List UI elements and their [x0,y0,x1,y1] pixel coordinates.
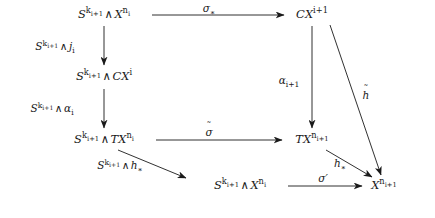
label-sigma-prime: σ′ [318,173,328,184]
node-top-left-X: X [114,7,122,21]
wedge-icon: ∧ [239,178,250,192]
alpha-subscript: i [71,108,73,117]
sigma-star-subscript: ∗ [210,8,215,17]
node-top-left: Ski+1∧Xni [78,9,130,21]
node-bottom-center: Ski+1∧Xni [214,180,266,192]
node-mid-left-2-S: S [74,132,82,146]
wedge-icon: ∧ [101,69,112,83]
alpha-i1-subscript: i+1 [286,80,300,89]
label-h-tilde: ˜h [363,90,370,101]
label-smash-j: Ski+1∧ji [35,41,74,52]
node-mid-right: TXni+1 [295,134,328,146]
prime-mark: ′ [325,172,327,184]
commutative-diagram: Ski+1∧Xni CXi+1 Ski+1∧CXi Ski+1∧TXni TXn… [0,0,435,218]
tilde-accent-icon: ˜ [207,121,212,131]
alpha-glyph: α [64,102,71,114]
node-bottom-right-n-sub: i+1 [385,181,397,189]
label-smash-j-k-sub: i+1 [47,42,58,49]
label-smash-h-k-sub: i+1 [109,161,120,168]
tilde-accent-icon: ˜ [364,84,369,94]
h-star-subscript: ∗ [341,163,346,172]
label-sigma-tilde: ˜σ [205,127,212,138]
label-h-star: h∗ [334,158,346,169]
label-smash-h-star: Ski+1∧h∗ [97,160,142,171]
node-top-left-n-sub: i [128,10,130,18]
node-bottom-right: Xni+1 [371,180,397,192]
node-mid-right-n-sub: i+1 [317,135,329,143]
h-star-arrow [326,150,372,177]
node-bottom-center-S: S [214,178,222,192]
node-mid-left-1-S: S [76,69,84,83]
label-smash-alpha: Ski+1∧αi [30,103,73,114]
node-mid-left-2-n-sub: i [132,135,134,143]
node-bottom-center-k-sub: i+1 [227,181,239,189]
wedge-icon: ∧ [120,159,131,171]
wedge-icon: ∧ [99,132,110,146]
wedge-icon: ∧ [103,7,114,21]
node-mid-left-1-CX: CX [112,69,129,83]
node-mid-left-1-k-sub: i+1 [89,72,101,80]
h-glyph: h [334,157,341,169]
wedge-icon: ∧ [58,40,69,52]
label-alpha-i1: αi+1 [279,75,300,86]
h-star-subscript: ∗ [138,165,143,174]
node-bottom-center-X: X [250,178,258,192]
node-mid-right-TX: TX [295,132,311,146]
node-mid-left-2-k-sub: i+1 [87,135,99,143]
node-top-left-S: S [78,7,86,21]
node-mid-left-1: Ski+1∧CXi [76,71,132,83]
label-smash-alpha-k-sub: i+1 [42,104,53,111]
wedge-icon: ∧ [53,102,64,114]
node-mid-left-1-sup: i [129,67,132,77]
node-top-left-k-sub: i+1 [91,10,103,18]
j-subscript: i [72,46,74,55]
node-top-right-sup: i+1 [313,5,328,15]
node-mid-left-2-TX: TX [111,132,127,146]
h-tilde-arrow [330,25,381,175]
label-sigma-star: σ∗ [203,3,215,14]
node-top-right-CX: CX [296,7,313,21]
node-bottom-center-n-sub: i [264,181,266,189]
node-bottom-right-X: X [371,178,379,192]
node-top-right: CXi+1 [296,9,328,21]
node-mid-left-2: Ski+1∧TXni [74,134,134,146]
